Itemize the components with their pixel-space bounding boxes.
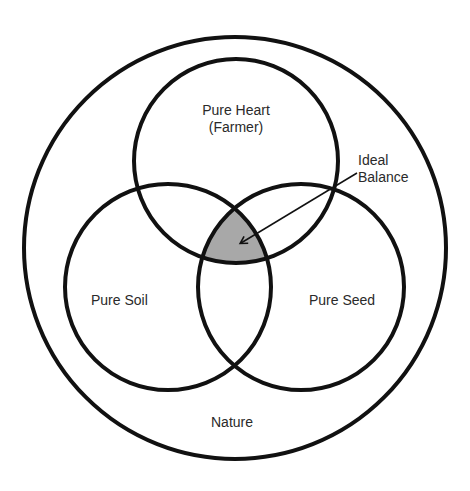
nature-label: Nature bbox=[211, 414, 253, 431]
ideal-balance-label-line1: Ideal bbox=[358, 152, 409, 169]
pure-soil-label: Pure Soil bbox=[91, 292, 148, 309]
pure-seed-circle bbox=[198, 184, 404, 390]
pure-seed-label: Pure Seed bbox=[309, 292, 375, 309]
pure-heart-label: Pure Heart (Farmer) bbox=[186, 102, 286, 136]
ideal-balance-label: Ideal Balance bbox=[358, 152, 409, 186]
ideal-balance-label-line2: Balance bbox=[358, 169, 409, 186]
pure-heart-label-line1: Pure Heart bbox=[186, 102, 286, 119]
pure-heart-label-line2: (Farmer) bbox=[186, 119, 286, 136]
pure-soil-circle bbox=[65, 184, 271, 390]
